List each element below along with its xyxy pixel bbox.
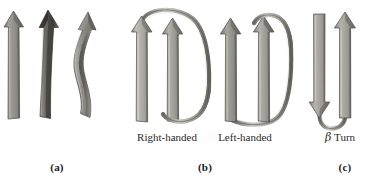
left-handed-strand-2 xyxy=(253,16,274,122)
slightly-twisted-strand-arrow xyxy=(39,10,58,119)
strongly-twisted-strand-arrow xyxy=(74,12,96,118)
beta-turn-word: Turn xyxy=(331,131,355,143)
figure-canvas xyxy=(0,0,380,182)
beta-turn-strand-down xyxy=(309,14,330,118)
panel-caption-c: (c) xyxy=(325,161,365,173)
panel-caption-a: (a) xyxy=(37,161,77,173)
flat-strand-arrow xyxy=(4,11,24,119)
left-handed-label: Left-handed xyxy=(214,131,276,143)
right-handed-label: Right-handed xyxy=(130,131,204,143)
beta-turn-label: β Turn xyxy=(310,131,370,144)
panel-c-group xyxy=(309,12,355,129)
beta-sheet-figure: Right-handed Left-handed β Turn (a) (b) … xyxy=(0,0,380,182)
panel-caption-b: (b) xyxy=(185,161,225,173)
beta-turn-strand-up xyxy=(334,12,355,118)
right-handed-strand-2 xyxy=(162,18,182,122)
panel-b-right-handed-group xyxy=(131,10,209,122)
left-handed-strand-1 xyxy=(220,18,240,122)
right-handed-strand-1 xyxy=(131,16,152,122)
panel-a-group xyxy=(4,10,96,119)
panel-b-left-handed-group xyxy=(220,15,291,125)
